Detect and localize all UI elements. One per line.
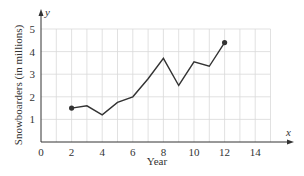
- grid-lines: [41, 29, 271, 142]
- x-axis-arrow-icon: [287, 140, 294, 145]
- y-tick-label: 3: [30, 68, 36, 80]
- y-tick-label: 1: [30, 113, 36, 125]
- y-tick-label: 5: [30, 23, 36, 35]
- endpoint-marker: [222, 40, 227, 45]
- x-tick-label: 10: [189, 146, 201, 158]
- chart-canvas: 0246810121412345 Year Snowboarders (in m…: [0, 0, 304, 176]
- x-tick-label: 0: [38, 146, 44, 158]
- x-axis-label: Year: [147, 155, 168, 167]
- x-tick-label: 6: [130, 146, 136, 158]
- y-tick-label: 4: [30, 46, 36, 58]
- x-tick-label: 14: [250, 146, 262, 158]
- x-tick-label: 12: [219, 146, 230, 158]
- y-axis-label: Snowboarders (in millions): [12, 24, 25, 145]
- y-axis-arrow-icon: [39, 9, 44, 16]
- x-tick-label: 4: [99, 146, 105, 158]
- y-tick-label: 2: [30, 91, 36, 103]
- y-axis-variable: y: [44, 6, 50, 18]
- line-chart: 0246810121412345 Year Snowboarders (in m…: [0, 0, 304, 176]
- x-axis-variable: x: [285, 126, 291, 138]
- x-tick-label: 2: [69, 146, 75, 158]
- endpoint-marker: [69, 106, 74, 111]
